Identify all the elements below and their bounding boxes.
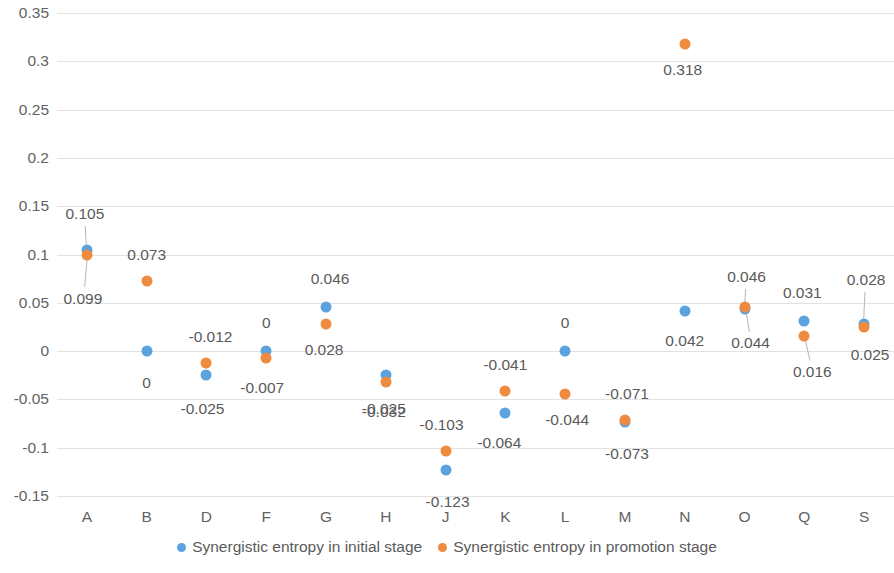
x-axis-tick-label: B [142,509,152,525]
legend-swatch-icon [177,543,186,552]
x-axis-tick-label: K [500,509,510,525]
gridline [57,496,894,497]
data-point-q-promotion[interactable] [799,330,810,341]
legend-label: Synergistic entropy in promotion stage [453,538,717,556]
data-point-d-promotion[interactable] [201,357,212,368]
gridline [57,448,894,449]
data-point-s-promotion[interactable] [859,321,870,332]
gridline [57,303,894,304]
gridline [57,13,894,14]
x-axis-tick-label: M [618,509,631,525]
data-label: 0.031 [783,285,822,301]
data-label: 0.044 [731,335,770,351]
y-axis-tick-label: 0.2 [27,150,49,166]
x-axis-tick-label: D [201,509,212,525]
legend-item[interactable]: Synergistic entropy in initial stage [177,538,422,556]
x-axis-tick-label: S [859,509,869,525]
data-point-a-promotion[interactable] [81,250,92,261]
data-label: -0.071 [605,386,649,402]
data-label: -0.103 [420,417,464,433]
data-label: 0.073 [127,247,166,263]
y-axis-tick-label: 0 [40,343,49,359]
data-point-b-initial[interactable] [141,346,152,357]
data-point-o-promotion[interactable] [739,301,750,312]
x-axis-tick-label: J [442,509,450,525]
data-point-b-promotion[interactable] [141,275,152,286]
data-label: 0.028 [305,342,344,358]
data-point-k-promotion[interactable] [500,385,511,396]
x-axis-tick-label: A [82,509,92,525]
data-point-g-initial[interactable] [321,301,332,312]
data-label: -0.032 [362,404,406,420]
gridline [57,255,894,256]
data-label: -0.041 [483,357,527,373]
data-label: 0.016 [793,364,832,380]
data-point-f-promotion[interactable] [261,352,272,363]
data-label: 0.042 [665,333,704,349]
data-point-j-initial[interactable] [440,464,451,475]
data-point-h-promotion[interactable] [380,377,391,388]
y-axis-tick-label: 0.15 [19,198,49,214]
data-label: -0.064 [477,435,521,451]
scatter-chart: 0.350.30.250.20.150.10.050-0.05-0.1-0.15… [0,0,894,573]
y-axis-tick-label: 0.1 [27,247,49,263]
data-label: 0.105 [65,206,104,222]
data-point-l-promotion[interactable] [560,388,571,399]
legend-item[interactable]: Synergistic entropy in promotion stage [438,538,717,556]
gridline [57,61,894,62]
legend-label: Synergistic entropy in initial stage [192,538,422,556]
y-axis-tick-label: -0.15 [14,488,49,504]
legend-swatch-icon [438,543,447,552]
data-point-m-promotion[interactable] [619,414,630,425]
data-point-j-promotion[interactable] [440,445,451,456]
y-axis-tick-label: -0.05 [14,391,49,407]
x-axis-tick-label: F [262,509,271,525]
chart-legend: Synergistic entropy in initial stageSyne… [0,538,894,556]
data-point-n-promotion[interactable] [679,38,690,49]
x-axis-tick-label: O [739,509,751,525]
y-axis: 0.350.30.250.20.150.10.050-0.05-0.1-0.15 [0,0,49,573]
data-label: 0.046 [727,269,766,285]
x-axis-tick-label: Q [798,509,810,525]
gridline [57,158,894,159]
y-axis-tick-label: 0.35 [19,5,49,21]
data-label: -0.012 [188,329,232,345]
data-label: -0.044 [545,412,589,428]
data-label: 0.318 [663,62,702,78]
data-point-d-initial[interactable] [201,370,212,381]
x-axis-tick-label: H [380,509,391,525]
data-label: -0.073 [605,446,649,462]
data-point-g-promotion[interactable] [321,319,332,330]
x-axis-tick-label: N [679,509,690,525]
data-label: 0 [142,375,151,391]
data-point-n-initial[interactable] [679,305,690,316]
y-axis-tick-label: -0.1 [22,440,49,456]
x-axis-tick-label: L [561,509,570,525]
data-point-k-initial[interactable] [500,407,511,418]
data-label: 0 [561,315,570,331]
data-label: 0.025 [851,347,890,363]
data-point-q-initial[interactable] [799,316,810,327]
y-axis-tick-label: 0.3 [27,53,49,69]
gridline [57,206,894,207]
gridline [57,110,894,111]
gridline [57,351,894,352]
data-point-l-initial[interactable] [560,346,571,357]
y-axis-tick-label: 0.25 [19,102,49,118]
plot-area: 0.1050-0.02500.046-0.025-0.123-0.0640-0.… [57,13,894,496]
data-label: 0.028 [847,272,886,288]
data-label: 0.099 [63,292,102,308]
x-axis-tick-label: G [320,509,332,525]
data-label: 0.046 [311,271,350,287]
data-label: -0.007 [240,380,284,396]
data-label: 0 [262,315,271,331]
y-axis-tick-label: 0.05 [19,295,49,311]
data-label: -0.025 [180,402,224,418]
